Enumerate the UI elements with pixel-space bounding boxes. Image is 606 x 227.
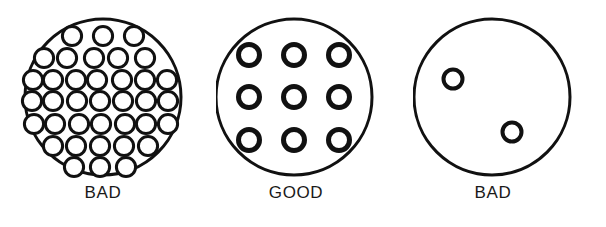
disc-bad-sparse xyxy=(413,0,573,190)
hole xyxy=(90,91,109,110)
disc-outline xyxy=(414,19,570,175)
hole xyxy=(284,45,305,66)
hole xyxy=(90,136,109,155)
panel-label-middle: GOOD xyxy=(216,183,376,203)
hole xyxy=(112,70,131,89)
hole xyxy=(135,70,154,89)
hole xyxy=(108,48,127,67)
hole xyxy=(22,91,41,110)
hole xyxy=(113,91,132,110)
hole xyxy=(138,136,157,155)
disc-good xyxy=(216,0,376,190)
hole xyxy=(84,48,103,67)
hole xyxy=(62,26,81,45)
hole xyxy=(90,157,109,176)
hole xyxy=(239,45,260,66)
hole xyxy=(136,91,155,110)
hole xyxy=(329,130,350,151)
hole xyxy=(136,114,155,133)
hole xyxy=(329,45,350,66)
hole xyxy=(284,87,305,108)
panel-label-right: BAD xyxy=(413,183,573,203)
hole xyxy=(114,136,133,155)
panel-bad-sparse: BAD xyxy=(413,0,573,227)
hole xyxy=(45,114,64,133)
hole xyxy=(64,157,83,176)
hole xyxy=(503,123,522,142)
hole xyxy=(43,136,62,155)
hole xyxy=(157,70,176,89)
hole xyxy=(34,48,53,67)
panel-bad-dense: BAD xyxy=(0,0,206,227)
hole xyxy=(284,130,305,151)
hole xyxy=(239,87,260,108)
panel-good: GOOD xyxy=(216,0,372,227)
disc-bad-dense xyxy=(0,0,206,190)
hole xyxy=(57,48,76,67)
hole xyxy=(93,26,112,45)
hole xyxy=(43,91,62,110)
hole xyxy=(69,114,88,133)
hole xyxy=(239,130,260,151)
hole xyxy=(24,114,43,133)
hole-group xyxy=(239,45,350,151)
panel-label-left: BAD xyxy=(0,183,206,203)
hole xyxy=(115,114,134,133)
hole xyxy=(66,70,85,89)
hole xyxy=(158,91,177,110)
hole xyxy=(135,48,154,67)
hole xyxy=(23,70,42,89)
hole xyxy=(87,70,106,89)
hole xyxy=(329,87,350,108)
hole xyxy=(66,136,85,155)
hole xyxy=(158,114,177,133)
hole-density-figure: BAD GOOD BA xyxy=(0,0,606,227)
hole xyxy=(124,26,143,45)
hole xyxy=(91,114,110,133)
hole xyxy=(43,70,62,89)
hole xyxy=(116,157,135,176)
hole xyxy=(67,91,86,110)
hole xyxy=(444,70,463,89)
